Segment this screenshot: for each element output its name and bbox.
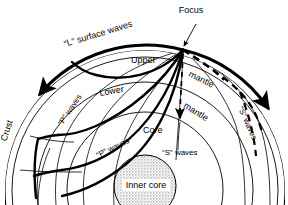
p-wave-ray-lower-left	[35, 139, 38, 198]
s-waves-center-label: “S” waves	[162, 148, 198, 157]
l-surface-waves-label: “L” surface waves	[63, 18, 134, 48]
thin-ray-crust-left-c	[38, 148, 50, 205]
p-waves-bottom-label: “P” waves	[95, 136, 131, 160]
seismic-wave-diagram: Focus “L” surface waves Upper mantle Low…	[0, 0, 288, 205]
p-waves-left-label: “P” waves	[56, 93, 83, 128]
lower-label: Lower	[99, 84, 125, 98]
p-wave-ray-crust-segment-deep	[38, 135, 58, 139]
focus-point	[181, 48, 184, 51]
core-label: Core	[143, 125, 163, 135]
focus-leader-arrow	[184, 24, 196, 46]
s-waves-right-label: “S” waves	[236, 105, 259, 141]
inner-core-label: Inner core	[126, 180, 167, 190]
lower-mantle-label: mantle	[182, 100, 210, 123]
crust-label: Crust	[0, 118, 15, 142]
upper-label: Upper	[131, 55, 156, 65]
upper-mantle-label: mantle	[187, 69, 216, 90]
focus-label: Focus	[179, 5, 204, 15]
